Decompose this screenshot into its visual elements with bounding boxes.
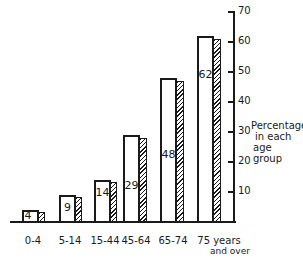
- y-tick-label: 20: [238, 155, 251, 166]
- y-tick: [228, 161, 235, 163]
- y-tick: [228, 41, 235, 43]
- y-tick-label: 40: [238, 95, 251, 106]
- x-label-15-44: 15-44: [90, 235, 120, 246]
- bar-value: 62: [197, 68, 214, 81]
- y-tick: [228, 191, 235, 193]
- x-label-5-14: 5-14: [56, 235, 84, 246]
- x-label-45-64: 45-64: [121, 235, 151, 246]
- bar-value: 9: [59, 201, 76, 214]
- y-tick-label: 70: [238, 5, 251, 16]
- bar-15-44: 14: [94, 180, 117, 222]
- y-tick: [228, 101, 235, 103]
- y-axis-label: Percentage in each age group: [251, 120, 303, 164]
- y-tick-label: 10: [238, 185, 251, 196]
- y-tick: [228, 131, 235, 133]
- bar-75-and-over: 62: [197, 36, 221, 222]
- bar-value: 48: [160, 148, 177, 161]
- bar-65-74: 48: [160, 78, 184, 222]
- y-label-line: age group: [251, 142, 303, 164]
- x-label-0-4: 0-4: [20, 235, 46, 246]
- y-tick: [228, 71, 235, 73]
- x-axis-baseline: [10, 221, 236, 223]
- y-tick-label: 30: [238, 125, 251, 136]
- x-label-75-over-line2: and over: [210, 246, 250, 256]
- y-tick: [228, 11, 235, 13]
- x-label-65-74: 65-74: [158, 235, 188, 246]
- bar-value: 29: [123, 179, 140, 192]
- x-label-75-over: 75 years: [196, 235, 242, 246]
- y-label-line: in each: [251, 131, 303, 142]
- bar-value: 14: [94, 186, 111, 199]
- y-label-line: Percentage: [251, 120, 303, 131]
- y-tick-label: 60: [238, 35, 251, 46]
- bar-45-64: 29: [123, 135, 147, 222]
- y-tick-label: 50: [238, 65, 251, 76]
- bar-5-14: 9: [59, 195, 82, 222]
